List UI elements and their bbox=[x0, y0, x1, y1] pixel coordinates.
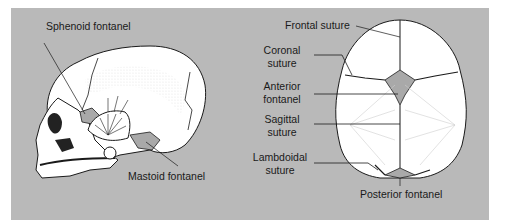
superior-skull bbox=[314, 20, 466, 186]
ear-canal bbox=[104, 147, 116, 159]
label-anterior-line1: Anterior bbox=[254, 80, 310, 93]
label-coronal-line2: suture bbox=[254, 57, 310, 70]
label-lambdoidal-line2: suture bbox=[248, 164, 312, 177]
label-anterior-fontanel: Anterior fontanel bbox=[254, 80, 310, 106]
label-mastoid-fontanel: Mastoid fontanel bbox=[128, 170, 205, 183]
label-coronal-suture: Coronal suture bbox=[254, 44, 310, 70]
label-coronal-line1: Coronal bbox=[254, 44, 310, 57]
label-frontal-suture: Frontal suture bbox=[285, 19, 350, 32]
lateral-skull bbox=[36, 43, 206, 178]
label-sagittal-line2: suture bbox=[254, 126, 310, 139]
label-sagittal-line1: Sagittal bbox=[254, 113, 310, 126]
label-lambdoidal-line1: Lambdoidal bbox=[248, 151, 312, 164]
label-sphenoid-fontanel: Sphenoid fontanel bbox=[46, 20, 131, 33]
label-posterior-fontanel: Posterior fontanel bbox=[360, 188, 442, 201]
label-lambdoidal-suture: Lambdoidal suture bbox=[248, 151, 312, 177]
label-sagittal-suture: Sagittal suture bbox=[254, 113, 310, 139]
label-anterior-line2: fontanel bbox=[254, 93, 310, 106]
